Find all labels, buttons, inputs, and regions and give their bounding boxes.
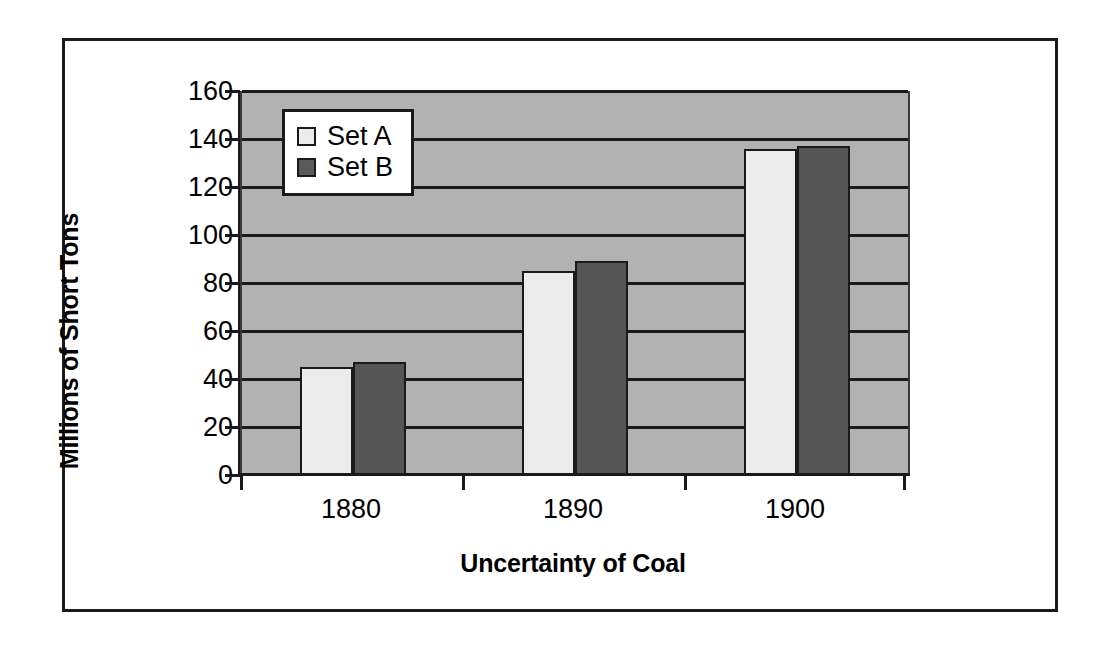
y-tick-label: 140	[143, 126, 233, 153]
y-tick-label: 100	[143, 222, 233, 249]
x-tick-mark	[462, 476, 465, 490]
y-tick-mark	[225, 234, 240, 237]
x-axis-tick-marks	[240, 476, 906, 490]
y-tick-mark	[225, 90, 240, 93]
y-tick-label: 160	[143, 78, 233, 105]
legend-item-set-b: Set B	[297, 154, 393, 181]
gridline	[242, 90, 908, 93]
y-axis-tick-labels: 160140120100806040200	[143, 79, 233, 475]
y-tick-label: 40	[143, 366, 233, 393]
legend-item-set-a: Set A	[297, 123, 393, 150]
y-tick-mark	[225, 330, 240, 333]
bar-1890-set-b	[575, 261, 628, 475]
bar-1900-set-a	[744, 149, 797, 475]
x-tick-label: 1880	[271, 496, 431, 523]
y-tick-mark	[225, 186, 240, 189]
y-axis-title: Millions of Short Tons	[55, 191, 84, 491]
legend-swatch-set-a-icon	[297, 127, 316, 146]
x-axis-tick-labels: 188018901900	[240, 496, 906, 536]
legend-label-set-b: Set B	[327, 154, 393, 181]
y-tick-label: 60	[143, 318, 233, 345]
y-tick-label: 0	[143, 462, 233, 489]
legend-swatch-set-b-icon	[297, 158, 316, 177]
chart-figure-frame: Millions of Short Tons 16014012010080604…	[62, 38, 1058, 612]
bar-1880-set-b	[353, 362, 406, 475]
y-tick-mark	[225, 426, 240, 429]
bar-1890-set-a	[522, 271, 575, 475]
y-tick-label: 20	[143, 414, 233, 441]
bar-1880-set-a	[300, 367, 353, 475]
x-tick-label: 1890	[493, 496, 653, 523]
y-tick-mark	[225, 282, 240, 285]
x-tick-label: 1900	[715, 496, 875, 523]
x-tick-mark	[240, 476, 243, 490]
y-tick-mark	[225, 138, 240, 141]
bar-1900-set-b	[797, 146, 850, 475]
y-tick-label: 120	[143, 174, 233, 201]
y-tick-mark	[225, 378, 240, 381]
x-axis-title: Uncertainty of Coal	[240, 549, 906, 578]
chart-legend: Set A Set B	[282, 109, 414, 196]
y-tick-label: 80	[143, 270, 233, 297]
x-tick-mark	[903, 476, 906, 490]
plot-area: Set A Set B	[240, 91, 910, 475]
legend-label-set-a: Set A	[327, 123, 392, 150]
x-tick-mark	[684, 476, 687, 490]
